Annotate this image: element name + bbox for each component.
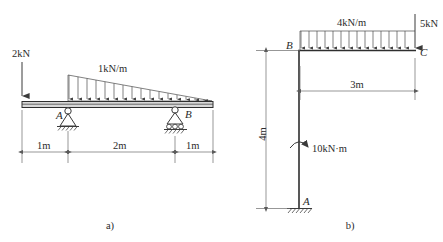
panel-b-joint-b-label: B xyxy=(286,39,293,51)
panel-a-group: 2kN 1kN/m xyxy=(12,48,213,232)
panel-a-caption: a) xyxy=(106,220,115,232)
panel-a-dimension-2: 2m xyxy=(113,140,126,151)
figure-root: 2kN 1kN/m xyxy=(0,0,443,242)
panel-a-triangular-load-outline xyxy=(68,75,212,101)
panel-b-load-arrows xyxy=(301,31,405,48)
panel-a-support-b-label: B xyxy=(185,108,192,120)
panel-b-distributed-load-label: 4kN/m xyxy=(337,17,366,28)
panel-b-dimension-horizontal-label: 3m xyxy=(350,79,363,90)
panel-a-point-load-label: 2kN xyxy=(12,48,31,59)
panel-b-moment-label: 10kN·m xyxy=(312,143,347,154)
panel-b-dimension-vertical-label: 4m xyxy=(257,127,268,140)
panel-a-dimension-1: 1m xyxy=(37,140,50,151)
panel-b-point-load-label: 5kN xyxy=(420,18,439,29)
panel-b-dimension-horizontal: 3m xyxy=(300,58,415,100)
panel-a-dimension-3: 1m xyxy=(186,140,199,151)
panel-a-support-a-label: A xyxy=(55,109,63,121)
panel-b-group: 4kN/m 5kN xyxy=(256,14,439,232)
panel-b-support-a-label: A xyxy=(302,195,310,207)
panel-b-caption: b) xyxy=(346,220,355,232)
panel-b-dimension-vertical: 4m xyxy=(256,51,300,209)
panel-a-distributed-load-label: 1kN/m xyxy=(98,63,127,74)
panel-b-joint-c-label: C xyxy=(420,46,428,58)
panel-a-support-a: A xyxy=(55,108,79,131)
panel-a-diagram: 2kN 1kN/m xyxy=(0,0,443,242)
panel-a-support-b: B xyxy=(164,107,192,134)
